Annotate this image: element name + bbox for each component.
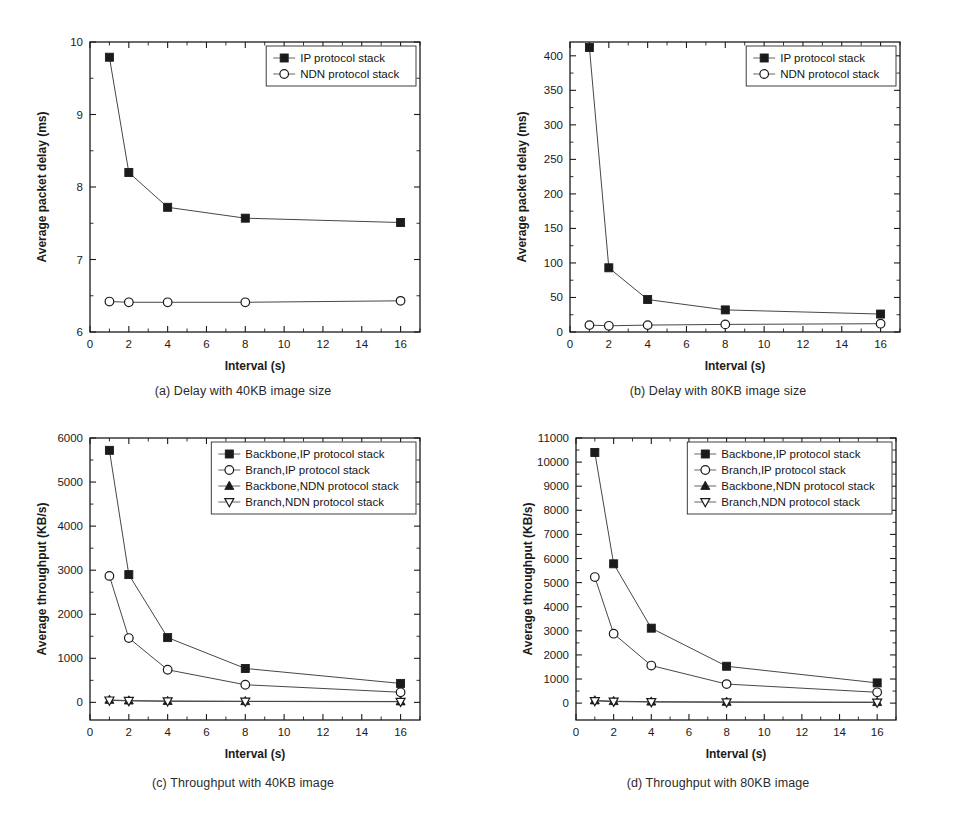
data-point-open-circle: [125, 634, 134, 643]
data-point-open-circle: [125, 298, 134, 307]
data-point-filled-square: [701, 450, 709, 458]
x-tick-label: 8: [242, 338, 248, 350]
y-tick-label: 6000: [57, 432, 83, 444]
y-tick-label: 0: [563, 697, 569, 709]
x-tick-label: 12: [317, 338, 330, 350]
data-point-open-circle: [609, 629, 618, 638]
x-tick-label: 8: [723, 726, 729, 738]
data-point-filled-square: [873, 679, 881, 687]
x-tick-label: 2: [126, 726, 132, 738]
y-tick-label: 4000: [57, 520, 83, 532]
data-point-open-circle: [722, 680, 731, 689]
x-tick-label: 6: [203, 726, 209, 738]
y-tick-label: 4000: [543, 601, 569, 613]
data-point-open-circle: [280, 70, 289, 79]
legend-label: Branch,NDN protocol stack: [245, 496, 384, 508]
data-point-filled-square: [760, 54, 768, 62]
y-tick-label: 2000: [57, 608, 83, 620]
y-tick-label: 6: [77, 326, 83, 338]
y-tick-label: 11000: [538, 432, 569, 444]
subplot-caption-b: (b) Delay with 80KB image size: [478, 384, 958, 398]
x-tick-label: 4: [648, 726, 655, 738]
y-tick-label: 3000: [543, 625, 569, 637]
data-point-open-circle: [873, 688, 882, 697]
x-axis-title: Interval (s): [225, 359, 286, 373]
series-2: [590, 696, 881, 706]
data-point-filled-square: [877, 310, 885, 318]
x-tick-label: 0: [567, 338, 573, 350]
series-1: [585, 319, 885, 330]
x-tick-label: 0: [87, 338, 93, 350]
data-point-filled-square: [125, 571, 133, 579]
data-point-open-circle: [591, 573, 600, 582]
x-tick-label: 14: [835, 338, 848, 350]
legend-label: Branch,IP protocol stack: [721, 464, 846, 476]
data-point-filled-square: [610, 560, 618, 568]
data-point-open-circle: [647, 661, 656, 670]
data-point-filled-square: [397, 219, 405, 227]
y-tick-label: 1000: [57, 652, 83, 664]
data-point-filled-square: [125, 169, 133, 177]
data-point-filled-square: [605, 264, 613, 272]
series-3: [105, 697, 405, 707]
legend-label: Backbone,NDN protocol stack: [245, 480, 399, 492]
data-point-filled-square: [723, 662, 731, 670]
data-point-filled-square: [241, 214, 249, 222]
subplot-a: 0246810121416678910Interval (s)Average p…: [8, 12, 478, 412]
data-point-open-circle: [105, 297, 114, 306]
y-tick-label: 8000: [543, 504, 569, 516]
x-tick-label: 16: [394, 338, 407, 350]
x-tick-label: 12: [317, 726, 330, 738]
data-point-filled-square: [225, 450, 233, 458]
data-point-filled-square: [280, 54, 288, 62]
x-tick-label: 14: [355, 338, 368, 350]
x-axis: 0246810121416: [87, 42, 420, 350]
legend: Backbone,IP protocol stackBranch,IP prot…: [211, 442, 416, 514]
x-tick-label: 16: [871, 726, 884, 738]
y-tick-label: 9000: [543, 480, 569, 492]
x-tick-label: 8: [722, 338, 728, 350]
data-point-open-circle: [163, 665, 172, 674]
legend-label: IP protocol stack: [300, 52, 385, 64]
data-point-filled-square: [397, 679, 405, 687]
legend-label: NDN protocol stack: [780, 68, 879, 80]
legend-label: Branch,IP protocol stack: [245, 464, 370, 476]
y-tick-label: 50: [550, 291, 563, 303]
x-tick-label: 6: [203, 338, 209, 350]
y-tick-label: 9: [77, 109, 83, 121]
legend: Backbone,IP protocol stackBranch,IP prot…: [687, 442, 892, 514]
y-tick-label: 10: [70, 36, 83, 48]
x-tick-label: 4: [164, 726, 171, 738]
x-axis-title: Interval (s): [706, 747, 767, 761]
x-tick-label: 14: [833, 726, 846, 738]
y-tick-label: 7000: [543, 528, 569, 540]
y-tick-label: 100: [544, 257, 563, 269]
x-tick-label: 16: [394, 726, 407, 738]
data-point-open-circle: [241, 680, 250, 689]
series-1: [591, 573, 882, 697]
legend-label: Backbone,NDN protocol stack: [721, 480, 875, 492]
y-tick-label: 6000: [543, 553, 569, 565]
figure-four-subplots: 0246810121416678910Interval (s)Average p…: [0, 0, 963, 814]
y-tick-label: 2000: [543, 649, 569, 661]
series-1: [105, 572, 405, 697]
subplot-caption-a: (a) Delay with 40KB image size: [8, 384, 478, 398]
data-point-open-circle: [643, 321, 652, 330]
y-tick-label: 150: [544, 222, 563, 234]
data-point-open-circle: [876, 319, 885, 328]
x-axis: 0246810121416: [567, 42, 900, 350]
data-point-filled-square: [585, 44, 593, 52]
data-point-filled-square: [164, 634, 172, 642]
data-point-filled-square: [105, 53, 113, 61]
data-point-open-circle: [396, 688, 405, 697]
legend: IP protocol stackNDN protocol stack: [266, 46, 416, 86]
x-tick-label: 8: [242, 726, 248, 738]
x-axis-title: Interval (s): [705, 359, 766, 373]
y-tick-label: 7: [77, 254, 83, 266]
data-point-filled-square: [164, 203, 172, 211]
subplot-caption-d: (d) Throughput with 80KB image: [478, 776, 958, 790]
x-tick-label: 4: [164, 338, 171, 350]
y-axis-title: Average throughput (KB/s): [521, 503, 535, 656]
x-tick-label: 12: [795, 726, 808, 738]
x-tick-label: 14: [355, 726, 368, 738]
